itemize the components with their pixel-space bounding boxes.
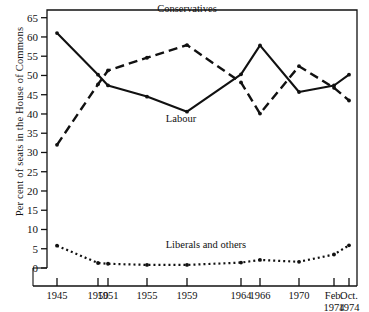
x-tick-label: 1966 <box>250 290 271 301</box>
data-point <box>347 73 351 77</box>
election-seats-line-chart: 05101520253035404550556065 1945195019511… <box>0 0 369 312</box>
data-point <box>258 44 262 48</box>
x-tick-label: Oct. <box>340 290 358 301</box>
data-point <box>297 90 301 94</box>
y-tick-label: 15 <box>27 204 39 216</box>
x-tick-label: 1959 <box>177 290 198 301</box>
data-point <box>96 261 100 265</box>
y-tick-label: 50 <box>27 69 39 81</box>
x-tick-label: 1955 <box>137 290 158 301</box>
series-line-conservatives <box>57 45 349 145</box>
data-point <box>55 244 59 248</box>
series-label-liberals-and-others: Liberals and others <box>166 239 246 250</box>
series-lines <box>57 33 349 265</box>
series-annotations: ConservativesLabourLiberals and others <box>157 3 246 250</box>
x-axis-ticks: 19451950195119551959196419661970Feb.1974… <box>47 278 361 312</box>
series-label-conservatives: Conservatives <box>157 3 217 14</box>
y-axis-title: Per cent of seats in the House of Common… <box>14 7 25 237</box>
data-point <box>239 261 243 265</box>
data-point <box>106 262 110 266</box>
y-tick-label: 55 <box>27 50 39 62</box>
y-tick-label: 20 <box>27 185 39 197</box>
y-tick-label: 60 <box>27 31 39 43</box>
data-point <box>332 253 336 257</box>
data-point <box>55 31 59 35</box>
data-point <box>297 260 301 264</box>
data-point <box>96 82 100 86</box>
y-tick-label: 45 <box>27 89 39 101</box>
series-label-labour: Labour <box>166 113 197 124</box>
y-tick-label: 25 <box>27 166 39 178</box>
data-point <box>145 56 149 60</box>
y-tick-label: 40 <box>27 108 39 120</box>
data-point <box>145 263 149 267</box>
data-point <box>347 243 351 247</box>
data-point <box>106 84 110 88</box>
y-axis-ticks: 05101520253035404550556065 <box>27 12 47 274</box>
data-point <box>96 73 100 77</box>
x-tick-label: 1945 <box>47 290 68 301</box>
data-point <box>347 99 351 103</box>
x-tick-label: 1951 <box>98 290 119 301</box>
data-point <box>332 86 336 90</box>
data-point <box>258 112 262 116</box>
y-tick-label: 35 <box>27 127 39 139</box>
data-point <box>55 143 59 147</box>
y-tick-label: 30 <box>27 146 39 158</box>
data-point <box>239 80 243 84</box>
series-line-labour <box>57 33 349 112</box>
series-points <box>55 31 351 267</box>
x-tick-label: 1970 <box>289 290 310 301</box>
data-point <box>258 258 262 262</box>
y-tick-label: 65 <box>27 12 39 24</box>
y-tick-label: 10 <box>27 223 39 235</box>
data-point <box>145 95 149 99</box>
data-point <box>239 72 243 76</box>
data-point <box>185 263 189 267</box>
x-tick-label-year: 1974 <box>339 302 361 312</box>
data-point <box>297 64 301 68</box>
data-point <box>106 69 110 73</box>
data-point <box>185 43 189 47</box>
chart-figure: Per cent of seats in the House of Common… <box>0 0 369 312</box>
y-tick-label: 5 <box>33 243 39 255</box>
